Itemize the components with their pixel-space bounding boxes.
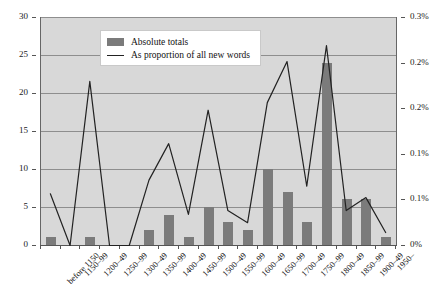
legend: Absolute totals As proportion of all new… — [100, 30, 261, 66]
x-axis-tick — [395, 245, 396, 249]
y-axis-left-tick — [32, 131, 36, 132]
x-axis-tick — [119, 245, 120, 249]
bar — [342, 199, 352, 245]
gridline — [41, 17, 396, 18]
gridline — [41, 169, 396, 170]
x-axis-tick — [198, 245, 199, 249]
y-axis-right-tick-label: 0% — [410, 240, 422, 249]
y-axis-right-tick-label: 0.2% — [410, 58, 429, 67]
y-axis-right-tick — [401, 199, 405, 200]
bar — [322, 63, 332, 245]
y-axis-left-tick-label: 15 — [19, 126, 28, 135]
x-axis-tick — [257, 245, 258, 249]
legend-item-label: As proportion of all new words — [131, 50, 250, 60]
bar — [263, 169, 273, 245]
y-axis-left-tick-label: 10 — [19, 164, 28, 173]
y-axis-right-tick-label: 0.3% — [410, 12, 429, 21]
x-axis-tick — [296, 245, 297, 249]
x-axis-tick — [375, 245, 376, 249]
y-axis-left-tick-label: 5 — [24, 202, 29, 211]
legend-bar-swatch-icon — [107, 38, 124, 46]
x-axis-tick — [139, 245, 140, 249]
bar — [243, 230, 253, 245]
y-axis-left: 051015202530 — [0, 0, 36, 301]
bar — [164, 215, 174, 245]
y-axis-right-tick-label: 0.1% — [410, 149, 429, 158]
y-axis-right-tick — [401, 108, 405, 109]
y-axis-left-tick-label: 0 — [24, 240, 29, 249]
x-axis-tick — [336, 245, 337, 249]
bar — [283, 192, 293, 245]
y-axis-right-tick-label: 0.1% — [410, 194, 429, 203]
legend-item-as-proportion-of-all-new-words: As proportion of all new words — [107, 48, 250, 61]
y-axis-right-tick-label: 0.2% — [410, 103, 429, 112]
gridline — [41, 93, 396, 94]
y-axis-left-tick-label: 20 — [19, 88, 28, 97]
x-axis-tick — [158, 245, 159, 249]
bar — [184, 237, 194, 245]
y-axis-right-tick — [401, 17, 405, 18]
x-axis-tick — [79, 245, 80, 249]
x-axis-tick — [237, 245, 238, 249]
gridline — [41, 131, 396, 132]
bar — [361, 199, 371, 245]
y-axis-left-tick — [32, 93, 36, 94]
y-axis-left-tick-label: 25 — [19, 50, 28, 59]
bar — [302, 222, 312, 245]
y-axis-left-tick — [32, 169, 36, 170]
x-axis-tick — [60, 245, 61, 249]
y-axis-right-tick — [401, 63, 405, 64]
bar — [204, 207, 214, 245]
y-axis-right-tick — [401, 154, 405, 155]
y-axis-left-tick — [32, 55, 36, 56]
x-axis-tick — [218, 245, 219, 249]
x-axis-tick — [277, 245, 278, 249]
x-axis-tick — [356, 245, 357, 249]
legend-item-label: Absolute totals — [131, 37, 188, 47]
bar — [46, 237, 56, 245]
bar — [85, 237, 95, 245]
x-axis-tick — [40, 245, 41, 249]
bar — [144, 230, 154, 245]
x-axis-tick — [316, 245, 317, 249]
y-axis-left-tick-label: 30 — [19, 12, 28, 21]
y-axis-left-tick — [32, 17, 36, 18]
chart-container: 051015202530 0%0.1%0.1%0.2%0.2%0.3% befo… — [0, 0, 445, 301]
bar — [381, 237, 391, 245]
legend-item-absolute-totals: Absolute totals — [107, 35, 250, 48]
y-axis-right-tick — [401, 245, 405, 246]
legend-line-swatch-icon — [107, 51, 124, 59]
x-axis-tick — [99, 245, 100, 249]
x-axis-tick — [178, 245, 179, 249]
bar — [223, 222, 233, 245]
y-axis-left-tick — [32, 207, 36, 208]
y-axis-left-tick — [32, 245, 36, 246]
